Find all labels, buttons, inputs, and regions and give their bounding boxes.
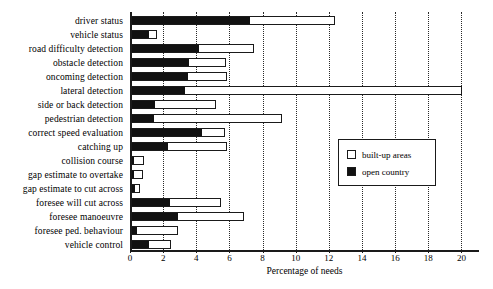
bar-segment-open-country: [132, 185, 135, 192]
bar-segment-open-country: [132, 73, 188, 80]
bar-row: [131, 56, 478, 70]
bar-total: [131, 142, 227, 151]
category-label: vehicle status: [0, 28, 126, 42]
category-label: catching up: [0, 140, 126, 154]
bar-total: [131, 170, 143, 179]
bar-total: [131, 226, 178, 235]
bar-segment-open-country: [132, 241, 149, 248]
bar-total: [131, 184, 140, 193]
category-label: side or back detection: [0, 98, 126, 112]
bar-total: [131, 198, 221, 207]
bar-total: [131, 240, 171, 249]
plot-area: [130, 12, 478, 250]
x-axis-title: Percentage of needs: [130, 266, 479, 276]
bar-segment-open-country: [132, 31, 149, 38]
bar-total: [131, 114, 282, 123]
x-tick-label: 2: [161, 253, 166, 263]
x-tick-label: 0: [128, 253, 133, 263]
bar-chart: driver statusvehicle statusroad difficul…: [0, 0, 493, 289]
x-tick-label: 8: [260, 253, 265, 263]
bar-segment-open-country: [132, 199, 170, 206]
bar-segment-open-country: [132, 17, 250, 24]
category-label: foresee ped. behaviour: [0, 224, 126, 238]
bar-row: [131, 126, 478, 140]
x-tick-label: 4: [194, 253, 199, 263]
bar-row: [131, 196, 478, 210]
bar-segment-open-country: [132, 129, 202, 136]
x-tick-label: 14: [358, 253, 367, 263]
bar-segment-open-country: [132, 59, 189, 66]
category-label: gap estimate to cut across: [0, 182, 126, 196]
bar-segment-open-country: [132, 115, 154, 122]
category-label: gap estimate to overtake: [0, 168, 126, 182]
bar-total: [131, 86, 462, 95]
legend-item-built-up-areas: built-up areas: [347, 146, 435, 163]
category-label: collision course: [0, 154, 126, 168]
bar-row: [131, 14, 478, 28]
category-label: foresee manoeuvre: [0, 210, 126, 224]
bar-total: [131, 44, 254, 53]
category-label: road difficulty detection: [0, 42, 126, 56]
category-axis-labels: driver statusvehicle statusroad difficul…: [0, 14, 126, 252]
x-tick-label: 12: [324, 253, 333, 263]
bar-total: [131, 100, 216, 109]
category-label: oncoming detection: [0, 70, 126, 84]
bar-segment-open-country: [132, 171, 134, 178]
legend-swatch-built-up-areas: [347, 150, 356, 159]
bar-total: [131, 30, 157, 39]
bar-total: [131, 128, 225, 137]
bar-total: [131, 58, 226, 67]
x-axis-ticks: 02468101214161820: [130, 250, 479, 264]
bar-segment-open-country: [132, 227, 137, 234]
bar-row: [131, 28, 478, 42]
bar-row: [131, 42, 478, 56]
bar-segment-open-country: [132, 45, 199, 52]
bar-total: [131, 72, 227, 81]
category-label: driver status: [0, 14, 126, 28]
bar-series-container: [131, 14, 478, 252]
category-label: foresee will cut across: [0, 196, 126, 210]
x-tick-label: 20: [457, 253, 466, 263]
chart-legend: built-up areas open country: [338, 139, 436, 186]
legend-label-built-up-areas: built-up areas: [362, 150, 411, 160]
bar-row: [131, 112, 478, 126]
category-label: correct speed evaluation: [0, 126, 126, 140]
x-tick-label: 6: [227, 253, 232, 263]
bar-total: [131, 212, 244, 221]
y-axis-line: [130, 12, 132, 250]
legend-item-open-country: open country: [347, 163, 435, 180]
x-tick-label: 18: [424, 253, 433, 263]
category-label: pedestrian detection: [0, 112, 126, 126]
bar-total: [131, 16, 335, 25]
bar-segment-open-country: [132, 157, 134, 164]
bar-segment-open-country: [132, 213, 178, 220]
bar-segment-open-country: [132, 143, 168, 150]
bar-row: [131, 70, 478, 84]
x-tick-label: 16: [391, 253, 400, 263]
x-tick-label: 10: [291, 253, 300, 263]
bar-segment-open-country: [132, 101, 155, 108]
category-label: vehicle control: [0, 238, 126, 252]
legend-label-open-country: open country: [362, 167, 409, 177]
bar-row: [131, 224, 478, 238]
bar-row: [131, 210, 478, 224]
legend-swatch-open-country: [347, 167, 356, 176]
bar-segment-open-country: [132, 87, 185, 94]
bar-total: [131, 156, 144, 165]
category-label: obstacle detection: [0, 56, 126, 70]
category-label: lateral detection: [0, 84, 126, 98]
bar-row: [131, 84, 478, 98]
bar-row: [131, 98, 478, 112]
